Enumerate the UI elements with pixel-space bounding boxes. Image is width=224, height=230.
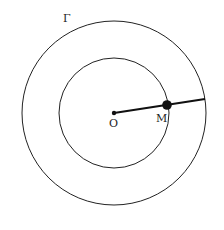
radius-segment-OM <box>114 99 205 113</box>
center-point-O <box>112 111 116 115</box>
point-M <box>162 100 172 110</box>
label-gamma: Γ <box>63 12 71 25</box>
label-O: O <box>109 117 118 130</box>
diagram-canvas: Γ O M <box>0 0 224 230</box>
label-M: M <box>156 112 167 125</box>
